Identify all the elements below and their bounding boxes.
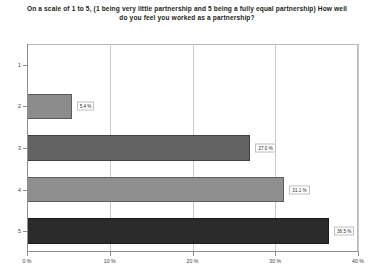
x-tick-label: 30 % bbox=[269, 258, 281, 264]
bar[interactable] bbox=[27, 94, 72, 120]
bar-row: 27.0 % bbox=[27, 135, 358, 161]
bar-row: 5.4 % bbox=[27, 94, 358, 120]
y-tick-label: 1 bbox=[18, 62, 21, 68]
chart-title: On a scale of 1 to 5, (1 being very litt… bbox=[22, 4, 352, 22]
y-tick-label: 5 bbox=[18, 228, 21, 234]
x-tick-label: 40 % bbox=[352, 258, 364, 264]
bar-row: 36.5 % bbox=[27, 218, 358, 244]
bar-row: 31.1 % bbox=[27, 177, 358, 203]
y-axis: 12345 bbox=[0, 44, 27, 252]
bar[interactable] bbox=[27, 177, 284, 203]
bar[interactable] bbox=[27, 135, 250, 161]
x-tick-mark bbox=[275, 252, 276, 256]
y-tick-label: 2 bbox=[18, 103, 21, 109]
bar[interactable] bbox=[27, 218, 329, 244]
y-tick-label: 4 bbox=[18, 187, 21, 193]
gridline bbox=[358, 44, 359, 252]
plot-area: 5.4 %27.0 %31.1 %36.5 % bbox=[27, 44, 358, 252]
x-tick-mark bbox=[193, 252, 194, 256]
x-axis: 0 %10 %20 %30 %40 % bbox=[27, 252, 358, 274]
bar-value-label: 31.1 % bbox=[289, 185, 309, 194]
bar-value-label: 27.0 % bbox=[255, 143, 275, 152]
bar-value-label: 36.5 % bbox=[334, 227, 354, 236]
x-tick-label: 0 % bbox=[23, 258, 32, 264]
y-tick-label: 3 bbox=[18, 145, 21, 151]
x-tick-label: 20 % bbox=[187, 258, 199, 264]
x-tick-mark bbox=[27, 252, 28, 256]
y-axis-line bbox=[27, 44, 28, 252]
bar-chart: On a scale of 1 to 5, (1 being very litt… bbox=[0, 0, 371, 276]
x-tick-label: 10 % bbox=[104, 258, 116, 264]
bar-row bbox=[27, 52, 358, 78]
bar-value-label: 5.4 % bbox=[77, 102, 95, 111]
x-tick-mark bbox=[110, 252, 111, 256]
x-tick-mark bbox=[358, 252, 359, 256]
